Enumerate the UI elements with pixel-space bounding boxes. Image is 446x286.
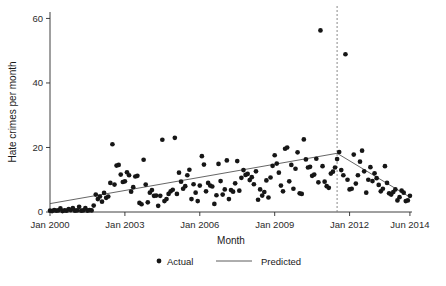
hate-crimes-chart-figure: 0204060 Jan 2000Jan 2003Jan 2006Jan 2009…: [0, 0, 446, 286]
legend-label-predicted: Predicted: [261, 256, 301, 267]
data-point: [241, 168, 246, 173]
data-point: [131, 185, 136, 190]
data-point: [401, 190, 406, 195]
data-point: [218, 179, 223, 184]
data-point: [279, 183, 284, 188]
data-point: [249, 175, 254, 180]
data-point: [189, 197, 194, 202]
data-point: [383, 164, 388, 169]
data-point: [102, 191, 107, 196]
predicted-trend-line: [50, 153, 410, 203]
data-point: [312, 172, 317, 177]
data-point: [374, 176, 379, 181]
data-point: [339, 168, 344, 173]
data-point: [320, 164, 325, 169]
data-point: [139, 202, 144, 207]
data-point: [349, 186, 354, 191]
data-point: [287, 179, 292, 184]
data-point: [308, 164, 313, 169]
data-point: [195, 199, 200, 204]
x-axis: Jan 2000Jan 2003Jan 2006Jan 2009Jan 2012…: [30, 212, 429, 230]
data-point: [118, 172, 123, 177]
data-point: [397, 195, 402, 200]
data-point: [376, 183, 381, 188]
data-point: [158, 194, 163, 199]
data-point: [331, 169, 336, 174]
data-point: [204, 189, 209, 194]
y-tick-label: 0: [38, 206, 43, 217]
data-point: [141, 157, 146, 162]
data-point: [112, 182, 117, 187]
data-point: [202, 162, 207, 167]
data-point: [252, 182, 257, 187]
data-point: [364, 190, 369, 195]
data-point: [385, 181, 390, 186]
data-point: [277, 170, 282, 175]
data-point: [222, 187, 227, 192]
x-tick-label: Jan 2000: [30, 219, 69, 230]
data-point: [318, 28, 323, 33]
data-point: [291, 186, 296, 191]
data-point: [268, 175, 273, 180]
data-point: [337, 150, 342, 155]
chart-legend: Actual Predicted: [157, 256, 302, 267]
data-point: [322, 179, 327, 184]
x-tick-label: Jan 2003: [105, 219, 144, 230]
data-point: [408, 194, 413, 199]
data-point: [295, 150, 300, 155]
data-point: [362, 169, 367, 174]
data-point: [326, 185, 331, 190]
chart-canvas: 0204060 Jan 2000Jan 2003Jan 2006Jan 2009…: [0, 0, 446, 286]
data-point: [345, 177, 350, 182]
data-point: [197, 183, 202, 188]
data-point: [106, 194, 111, 199]
data-point: [381, 186, 386, 191]
data-point: [183, 184, 188, 189]
data-point: [370, 179, 375, 184]
data-point: [164, 197, 169, 202]
data-point: [172, 135, 177, 140]
data-point: [239, 175, 244, 180]
actual-data-points: [48, 28, 413, 213]
data-point: [356, 173, 361, 178]
data-point: [93, 192, 98, 197]
data-point: [353, 181, 358, 186]
data-point: [358, 159, 363, 164]
data-point: [200, 154, 205, 159]
data-point: [393, 187, 398, 192]
data-point: [150, 188, 155, 193]
data-point: [335, 157, 340, 162]
data-point: [266, 195, 271, 200]
data-point: [110, 142, 115, 147]
data-point: [123, 179, 128, 184]
data-point: [160, 137, 165, 142]
data-point: [301, 137, 306, 142]
y-axis: 0204060: [32, 12, 50, 217]
data-point: [270, 164, 275, 169]
data-point: [258, 187, 263, 192]
data-point: [170, 187, 175, 192]
data-point: [145, 200, 150, 205]
x-tick-label: Jan 2012: [330, 219, 369, 230]
data-point: [210, 184, 215, 189]
data-point: [91, 203, 96, 208]
data-point: [227, 197, 232, 202]
data-point: [129, 189, 134, 194]
data-point: [177, 170, 182, 175]
data-point: [193, 190, 198, 195]
data-point: [366, 177, 371, 182]
y-tick-label: 60: [32, 13, 43, 24]
data-point: [262, 190, 267, 195]
data-point: [368, 165, 373, 170]
data-point: [272, 153, 277, 158]
y-tick-label: 20: [32, 142, 43, 153]
data-point: [372, 171, 377, 176]
data-point: [214, 193, 219, 198]
data-point: [360, 148, 365, 153]
data-point: [135, 174, 140, 179]
y-tick-label: 40: [32, 77, 43, 88]
data-point: [245, 172, 250, 177]
data-point: [89, 208, 94, 213]
legend-label-actual: Actual: [167, 256, 193, 267]
y-axis-title: Hate crimes per month: [7, 61, 18, 162]
